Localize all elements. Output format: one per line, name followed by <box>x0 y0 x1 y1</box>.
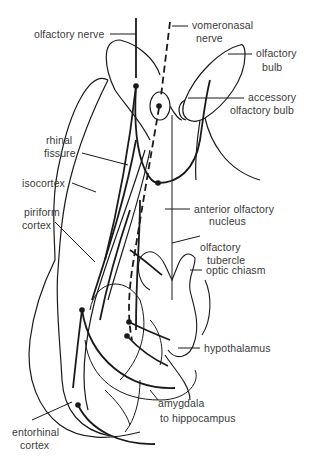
label-vomeronasal-nerve-line1: vomeronasal <box>192 19 253 31</box>
label-optic-chiasm: optic chiasm <box>206 264 266 276</box>
amygdala-outline <box>85 284 196 432</box>
label-vomeronasal-nerve-line2: nerve <box>196 32 223 44</box>
label-piriform-cortex-line1: piriform <box>24 206 60 218</box>
label-accessory-bulb-line1: accessory <box>248 91 296 103</box>
label-to-hippocampus: to hippocampus <box>160 412 236 424</box>
label-anterior-olfactory-nucleus-line1: anterior olfactory <box>194 203 274 215</box>
label-olfactory-tubercle-line1: olfactory <box>200 241 241 253</box>
label-olfactory-bulb-line2: bulb <box>262 61 282 73</box>
label-entorhinal-cortex-line2: cortex <box>20 439 49 451</box>
label-amygdala: amygdala <box>158 397 204 409</box>
accessory-bulb-outline <box>150 92 182 120</box>
label-rhinal-fissure-line1: rhinal <box>46 134 72 146</box>
olfactory-pathway-diagram: olfactory nerve vomeronasal nerve olfact… <box>0 0 312 467</box>
label-piriform-cortex-line2: cortex <box>22 219 51 231</box>
label-anterior-olfactory-nucleus-line2: nucleus <box>209 215 246 227</box>
label-entorhinal-cortex-line1: entorhinal <box>12 426 59 438</box>
label-isocortex: isocortex <box>22 177 65 189</box>
label-olfactory-bulb-line1: olfactory <box>256 47 297 59</box>
label-accessory-bulb-line2: olfactory bulb <box>230 104 294 116</box>
label-rhinal-fissure-line2: fissure <box>44 147 76 159</box>
hypothalamus-projections <box>127 322 170 366</box>
ventral-structures <box>138 252 209 400</box>
label-olfactory-nerve: olfactory nerve <box>34 28 104 40</box>
label-hypothalamus: hypothalamus <box>204 342 271 354</box>
brain-outline <box>29 40 160 437</box>
